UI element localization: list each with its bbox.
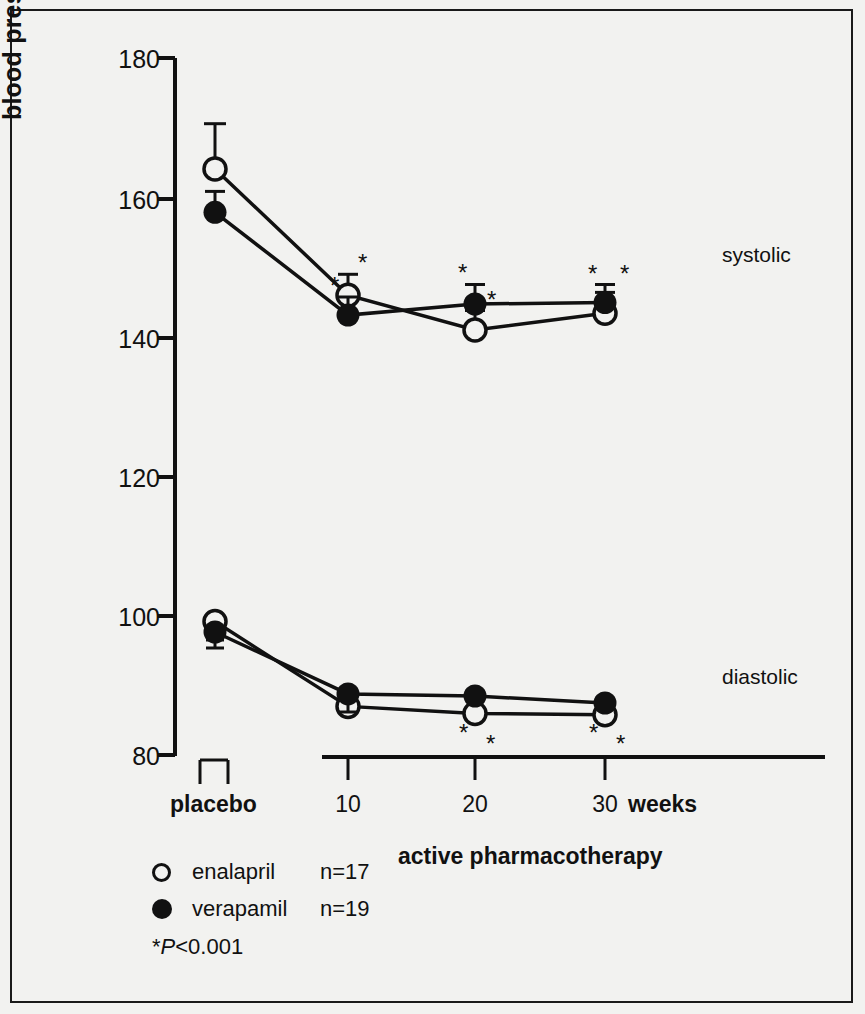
legend: enalapril n=17 verapamil n=19 *P<0.001: [152, 855, 370, 960]
pvalue-footnote: *P<0.001: [152, 934, 370, 960]
legend-n-verapamil: n=19: [320, 896, 370, 922]
sig-star-verapamil-dia-w30: *: [589, 719, 598, 747]
series-enalapril-diastolic: [204, 611, 616, 726]
sig-star-verapamil-sys-w10: *: [330, 272, 339, 300]
sig-star-enalapril-sys-w20: *: [487, 286, 496, 314]
filled-circle-icon: [152, 899, 192, 919]
y-axis-spine: [158, 58, 175, 756]
placebo-bracket: [200, 760, 228, 784]
sig-star-verapamil-sys-w30: *: [588, 260, 597, 288]
series-verapamil-systolic: [204, 191, 617, 326]
sig-star-enalapril-sys-w10: *: [358, 249, 367, 277]
x-axis-spine: [322, 757, 825, 780]
sig-star-enalapril-dia-w30: *: [616, 730, 625, 758]
figure-canvas: blood pressure(mmHg) 180 160 140 120 100…: [0, 0, 865, 1014]
series-verapamil-diastolic: [204, 621, 617, 715]
legend-label-verapamil: verapamil: [192, 896, 320, 922]
sig-star-enalapril-dia-w20: *: [486, 730, 495, 758]
chart-svg: [0, 0, 865, 1014]
sig-star-verapamil-sys-w20: *: [458, 259, 467, 287]
legend-item-enalapril: enalapril n=17: [152, 855, 370, 889]
pvalue-threshold: <0.001: [175, 934, 243, 959]
legend-label-enalapril: enalapril: [192, 859, 320, 885]
sig-star-enalapril-sys-w30: *: [620, 260, 629, 288]
legend-item-verapamil: verapamil n=19: [152, 892, 370, 926]
sig-star-verapamil-dia-w20: *: [459, 719, 468, 747]
legend-n-enalapril: n=17: [320, 859, 370, 885]
open-circle-icon: [152, 863, 192, 882]
pvalue-star: *: [152, 934, 161, 959]
pvalue-symbol: P: [161, 934, 176, 959]
plot-area: blood pressure(mmHg) 180 160 140 120 100…: [0, 0, 865, 1014]
